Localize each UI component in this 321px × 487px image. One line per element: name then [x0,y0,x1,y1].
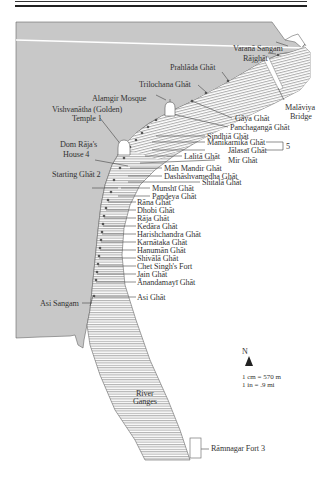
label-dom-raja-1: Dom Rāja's [60,140,97,149]
compass-north-label: N [242,347,254,356]
label-ganges: Ganges [133,397,157,406]
ghat-label: Mir Ghāt [228,156,257,165]
label-vishvanatha-2: Temple 1 [72,114,102,123]
north-arrow-icon [245,356,253,366]
label-starting-ghat: Starting Ghāt 2 [52,170,101,179]
label-trilochana-ghat: Trilochana Ghāt [139,80,191,89]
label-dom-raja-2: House 4 [63,150,89,159]
ghat-label: Gāya Ghāt [235,114,269,123]
label-varana-sangam: Varanā Sangam [233,44,283,53]
ghat-label: Jālasaī Ghāt [228,146,267,155]
bracket-number: 5 [286,142,290,151]
scale-imperial: 1 in = .9 mi [242,381,281,389]
label-vishvanatha-1: Vishvanātha (Golden) [52,105,122,114]
ghat-label: Asi Ghāt [137,293,166,302]
label-rajghat: Rājghāt [243,54,268,63]
label-alamgir-mosque: Alamgir Mosque [92,94,146,103]
label-asi-sangam: Asi Sangam [40,299,79,308]
compass: N [242,347,254,356]
scale-metric: 1 cm = 570 m [242,373,281,381]
ramnagar-fort-icon [190,438,201,458]
label-prahlada-ghat: Prahlāda Ghāt [170,63,215,72]
label-malaviya: Malāviya [285,103,315,112]
ghat-label: Panchagangā Ghāt [230,123,290,132]
ghat-label: Ānandamayī Ghāt [137,278,195,287]
ghat-label: Shitalā Ghāt [202,178,242,187]
golden-temple-icon [118,140,130,155]
label-bridge: Bridge [290,112,312,121]
ghat-label: Lalitā Ghāt [184,152,220,161]
scale-legend: 1 cm = 570 m 1 in = .9 mi [242,373,281,389]
label-ramnagar-fort: Rāmnagar Fort 3 [211,444,265,453]
